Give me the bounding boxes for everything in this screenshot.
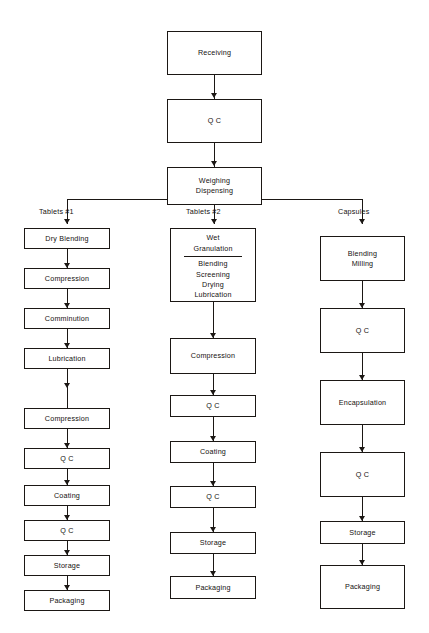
granulation-head-line2: Granulation — [191, 244, 234, 255]
node-label-line1: Weighing — [199, 176, 230, 186]
node-right-blending-milling[interactable]: Blending Milling — [320, 236, 405, 281]
node-label: Q C — [206, 492, 219, 502]
connector-left-4b — [67, 388, 68, 408]
node-left-lubrication[interactable]: Lubrication — [24, 348, 110, 369]
granulation-divider — [184, 256, 242, 257]
node-right-packaging[interactable]: Packaging — [320, 565, 405, 609]
node-label: Storage — [349, 528, 375, 538]
node-label: Q C — [356, 326, 369, 336]
branch-label-tablets-2: Tablets #2 — [186, 207, 221, 216]
node-label: Coating — [54, 491, 80, 501]
node-middle-coating[interactable]: Coating — [170, 441, 256, 463]
node-label: Q C — [60, 454, 73, 464]
node-label-line2: Milling — [352, 259, 374, 269]
node-label: Storage — [54, 561, 80, 571]
node-label: Q C — [356, 470, 369, 480]
arrowhead-branch-middle — [211, 219, 217, 224]
node-label: Compression — [45, 274, 89, 284]
node-right-storage[interactable]: Storage — [320, 521, 405, 544]
arrowhead-qc-to-weighing — [211, 161, 217, 166]
granulation-sub-lubrication: Lubrication — [194, 290, 231, 300]
node-label: Packaging — [345, 582, 380, 592]
node-label: Compression — [191, 351, 235, 361]
granulation-head-line1: Wet — [204, 233, 221, 244]
arrowhead-branch-left — [64, 219, 70, 224]
node-label: Lubrication — [48, 354, 85, 364]
node-left-compression-1[interactable]: Compression — [24, 268, 110, 289]
granulation-sub-drying: Drying — [202, 280, 224, 290]
node-left-comminution[interactable]: Comminution — [24, 308, 110, 329]
node-middle-qc-1[interactable]: Q C — [170, 395, 256, 417]
node-label: Packaging — [195, 583, 230, 593]
node-right-qc-1[interactable]: Q C — [320, 308, 405, 353]
node-weighing-dispensing[interactable]: Weighing Dispensing — [167, 167, 262, 205]
node-left-coating[interactable]: Coating — [24, 485, 110, 506]
node-label: Receiving — [198, 48, 231, 58]
branch-bus-left — [67, 199, 167, 200]
branch-label-tablets-1: Tablets #1 — [39, 207, 74, 216]
node-label-line1: Blending — [348, 249, 377, 259]
node-middle-qc-2[interactable]: Q C — [170, 486, 256, 508]
node-intake-qc[interactable]: Q C — [167, 99, 262, 143]
node-receiving[interactable]: Receiving — [167, 31, 262, 75]
node-label: Compression — [45, 414, 89, 424]
node-label: Q C — [208, 116, 221, 126]
node-middle-compression[interactable]: Compression — [170, 338, 256, 374]
node-right-encapsulation[interactable]: Encapsulation — [320, 380, 405, 425]
granulation-sub-blending: Blending — [198, 259, 227, 269]
node-left-storage[interactable]: Storage — [24, 555, 110, 576]
node-label: Comminution — [45, 314, 89, 324]
node-left-qc-1[interactable]: Q C — [24, 448, 110, 469]
node-label: Encapsulation — [339, 398, 387, 408]
node-label: Dry Blending — [45, 234, 88, 244]
node-left-compression-2[interactable]: Compression — [24, 408, 110, 429]
node-label: Q C — [60, 526, 73, 536]
node-label: Storage — [200, 538, 226, 548]
node-left-packaging[interactable]: Packaging — [24, 590, 110, 611]
branch-bus-right — [262, 199, 363, 200]
arrowhead-branch-right — [359, 219, 365, 224]
flowchart-canvas: Receiving Q C Weighing Dispensing Tablet… — [0, 0, 429, 633]
node-label-line2: Dispensing — [196, 186, 233, 196]
node-label: Q C — [206, 401, 219, 411]
node-left-dry-blending[interactable]: Dry Blending — [24, 228, 110, 249]
node-right-qc-2[interactable]: Q C — [320, 452, 405, 497]
node-middle-storage[interactable]: Storage — [170, 532, 256, 554]
branch-label-capsules: Capsules — [338, 207, 370, 216]
node-middle-packaging[interactable]: Packaging — [170, 576, 256, 599]
arrowhead-receiving-to-qc — [211, 93, 217, 98]
node-label: Packaging — [49, 596, 84, 606]
node-middle-wet-granulation[interactable]: Wet Granulation Blending Screening Dryin… — [170, 228, 256, 302]
node-left-qc-2[interactable]: Q C — [24, 520, 110, 541]
node-label: Coating — [200, 447, 226, 457]
granulation-sub-screening: Screening — [196, 270, 230, 280]
